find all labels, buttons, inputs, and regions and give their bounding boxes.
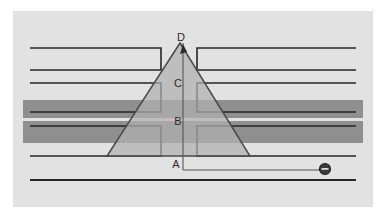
- figure-canvas: D C B A: [0, 0, 386, 219]
- bracket-top-left: [30, 48, 161, 70]
- diagram-svg: D C B A: [0, 0, 386, 219]
- central-triangle: [107, 43, 250, 156]
- label-c: C: [174, 77, 182, 89]
- circle-marker-bar-icon: [322, 168, 329, 170]
- bracket-top-right: [197, 48, 356, 70]
- label-d: D: [177, 31, 185, 43]
- circle-marker[interactable]: [320, 164, 331, 175]
- label-b: B: [174, 115, 181, 127]
- label-a: A: [172, 158, 180, 170]
